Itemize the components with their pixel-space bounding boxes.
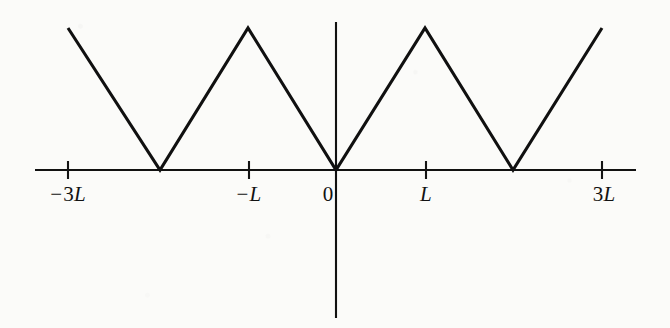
- tick-label-variable: L: [420, 182, 432, 206]
- tick-label-number: 3: [593, 182, 604, 206]
- tick-label-minus-3L: −3L: [50, 182, 86, 207]
- tick-label-variable: L: [603, 182, 615, 206]
- tick-label-minus-L: −L: [237, 182, 262, 207]
- tick-label-3L: 3L: [593, 182, 616, 207]
- tick-label-zero: 0: [323, 182, 334, 207]
- tick-label-L: L: [420, 182, 432, 207]
- tick-label-variable: L: [250, 182, 262, 206]
- minus-sign-icon: −: [50, 182, 63, 206]
- tick-label-variable: L: [74, 182, 86, 206]
- minus-sign-icon: −: [237, 182, 250, 206]
- tick-label-number: 0: [323, 182, 334, 206]
- tick-label-number: 3: [63, 182, 74, 206]
- plot-area: [0, 0, 670, 328]
- figure-canvas: −3L −L 0 L 3L: [0, 0, 670, 328]
